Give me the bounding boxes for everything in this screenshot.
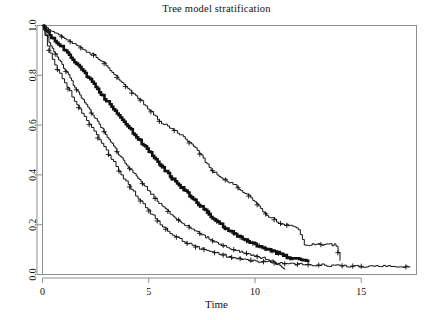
censor-mark (359, 264, 364, 269)
censor-mark (106, 152, 111, 157)
survival-curves (43, 26, 411, 270)
censor-mark (212, 250, 217, 255)
censor-mark (127, 184, 132, 189)
chart-figure: Tree model stratification 051015 0.00.20… (0, 0, 433, 320)
km-curve-group-4-worst-survival (43, 26, 411, 268)
censor-mark (63, 69, 68, 74)
censor-mark (238, 256, 243, 261)
y-tick-label-0.0: 0.0 (28, 268, 38, 280)
x-tick-label-15: 15 (356, 286, 366, 297)
y-axis: 0.00.20.40.60.81.0 (28, 19, 42, 280)
y-tick-label-0.2: 0.2 (28, 219, 38, 231)
censor-mark (221, 253, 226, 258)
censor-mark (248, 258, 253, 263)
censor-mark (184, 241, 189, 246)
x-tick-label-0: 0 (40, 286, 45, 297)
censor-mark (76, 105, 81, 110)
censor-mark (350, 263, 355, 268)
plot-frame (43, 26, 417, 275)
censor-mark (197, 152, 202, 157)
censor-mark (284, 223, 289, 228)
survival-plot-svg: 051015 0.00.20.40.60.81.0 (0, 0, 433, 320)
y-tick-label-0.6: 0.6 (28, 119, 38, 131)
x-tick-label-10: 10 (250, 286, 260, 297)
censor-mark (282, 261, 287, 266)
x-tick-label-5: 5 (146, 286, 151, 297)
censor-mark (403, 264, 408, 269)
x-axis-label: Time (0, 298, 433, 310)
y-tick-label-0.8: 0.8 (28, 69, 38, 81)
censor-mark (46, 48, 51, 53)
censor-mark (255, 254, 260, 259)
censor-mark (229, 255, 234, 260)
censor-mark (316, 262, 321, 267)
km-curve-group-3-lower-middle (43, 26, 285, 270)
censor-mark (318, 242, 323, 247)
censor-mark (295, 262, 300, 267)
x-axis: 051015 (40, 278, 366, 297)
km-curve-group-2-thick-middle (43, 26, 309, 263)
censor-mark (231, 247, 236, 252)
censor-mark (306, 262, 311, 267)
censoring-marks (46, 34, 408, 269)
censor-mark (261, 259, 266, 264)
censor-mark (244, 251, 249, 256)
y-tick-label-0.4: 0.4 (28, 169, 38, 181)
y-tick-label-1.0: 1.0 (28, 19, 38, 31)
censor-mark (340, 263, 345, 268)
censor-mark (129, 91, 134, 96)
censor-mark (148, 109, 153, 114)
